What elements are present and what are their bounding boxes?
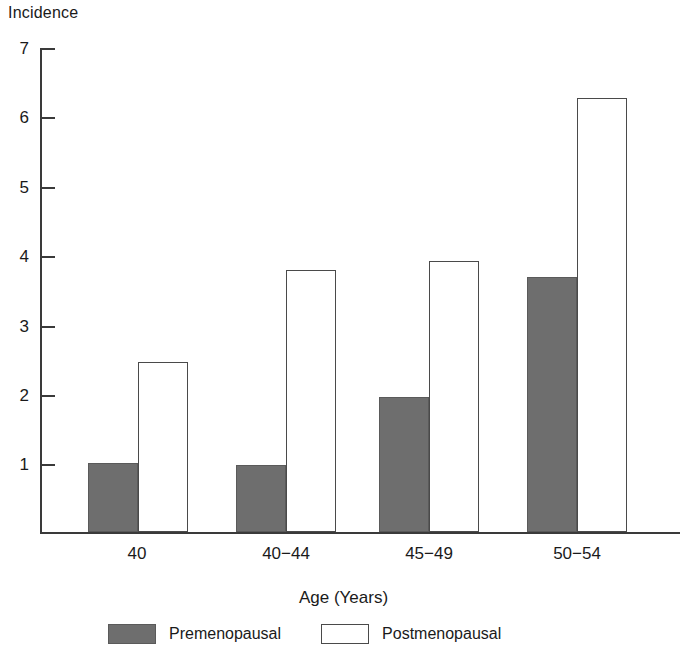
y-tick-label-3: 3 (20, 318, 29, 335)
y-tick-label-6: 6 (20, 110, 29, 127)
y-tick-label-1: 1 (20, 457, 29, 474)
bar-postmenopausal-50-54 (577, 98, 627, 532)
bar-postmenopausal-40-44 (286, 270, 336, 532)
legend-swatch-premenopausal-icon (108, 624, 156, 644)
x-tick-label-1: 40−44 (236, 544, 336, 564)
y-axis-line (40, 48, 42, 534)
legend-label-postmenopausal: Postmenopausal (382, 625, 501, 643)
bar-postmenopausal-45-49 (429, 261, 479, 532)
bar-premenopausal-45-49 (379, 397, 429, 532)
bar-postmenopausal-40 (138, 362, 188, 532)
y-tick-label-2: 2 (20, 387, 29, 404)
x-tick-label-3: 50−54 (527, 544, 627, 564)
x-tick-label-2: 45−49 (379, 544, 479, 564)
bar-premenopausal-40-44 (236, 465, 286, 532)
x-tick-label-0: 40 (87, 544, 187, 564)
x-axis-title: Age (Years) (0, 588, 687, 608)
y-tick-label-7: 7 (20, 40, 29, 57)
legend-label-premenopausal: Premenopausal (169, 625, 281, 643)
bar-premenopausal-40 (88, 463, 138, 532)
legend: Premenopausal Postmenopausal (108, 624, 501, 644)
bar-premenopausal-50-54 (527, 277, 577, 532)
legend-swatch-postmenopausal-icon (321, 624, 369, 644)
plot-area: 7 6 5 4 3 2 1 (40, 48, 680, 534)
y-tick-label-4: 4 (20, 248, 29, 265)
legend-item-premenopausal[interactable]: Premenopausal (108, 624, 281, 644)
x-axis-line (40, 532, 680, 534)
legend-item-postmenopausal[interactable]: Postmenopausal (321, 624, 501, 644)
y-tick-label-5: 5 (20, 179, 29, 196)
y-axis-title: Incidence (8, 4, 78, 22)
